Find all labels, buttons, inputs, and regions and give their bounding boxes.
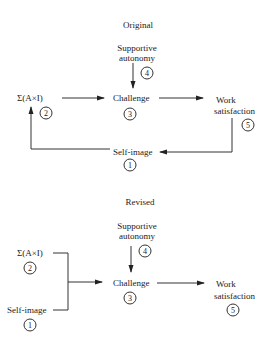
arrow-satisfaction-to-selfimage <box>160 118 232 152</box>
original-satisfaction-label: satisfaction <box>214 106 255 116</box>
original-selfimage-label: Self-image <box>113 147 153 157</box>
revised-challenge-label: Challenge <box>113 278 150 288</box>
original-node-1-badge: 1 <box>124 159 137 172</box>
revised-work-label: Work <box>216 279 236 289</box>
revised-node-2-badge: 2 <box>24 262 37 275</box>
revised-node-4-badge: 4 <box>139 245 152 258</box>
revised-node-3-badge: 3 <box>124 292 137 305</box>
bracket-sum-selfimage <box>53 253 68 310</box>
original-supportive-label: Supportive <box>117 43 157 53</box>
revised-satisfaction-label: satisfaction <box>214 291 255 301</box>
revised-title: Revised <box>126 197 155 207</box>
original-node-4-badge: 4 <box>141 67 154 80</box>
revised-node-5-badge: 5 <box>227 304 240 317</box>
revised-sum-label: Σ(A×I) <box>17 248 43 258</box>
original-sum-label: Σ(A×I) <box>17 93 43 103</box>
original-node-5-badge: 5 <box>242 119 255 132</box>
revised-selfimage-label: Self-image <box>7 305 47 315</box>
original-challenge-label: Challenge <box>113 93 150 103</box>
original-node-2-badge: 2 <box>40 107 53 120</box>
revised-autonomy-label: autonomy <box>119 231 155 241</box>
original-autonomy-label: autonomy <box>119 53 155 63</box>
revised-supportive-label: Supportive <box>117 221 157 231</box>
original-node-3-badge: 3 <box>124 108 137 121</box>
revised-node-1-badge: 1 <box>24 319 37 332</box>
original-work-label: Work <box>216 95 236 105</box>
original-title: Original <box>123 20 153 30</box>
